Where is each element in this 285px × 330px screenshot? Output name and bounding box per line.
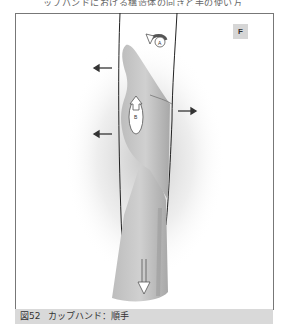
panel-label-badge: F: [233, 24, 248, 39]
caption-text: カップハンド：順手: [48, 311, 129, 321]
caption-number: 図52: [20, 311, 40, 321]
hand-illustration: A B: [0, 0, 285, 330]
figure-caption: 図52カップハンド：順手: [15, 309, 273, 324]
